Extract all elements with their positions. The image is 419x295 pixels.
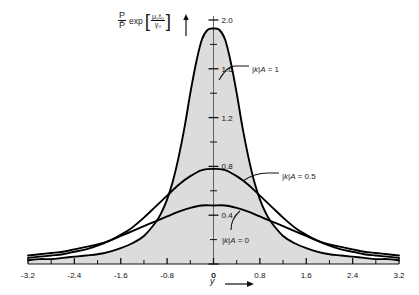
x-axis-label: y bbox=[210, 276, 215, 286]
x-tick-label: -1.6 bbox=[114, 271, 128, 280]
chart-figure: -3.2-2.4-1.6-0.800.81.62.43.200.40.81.21… bbox=[0, 0, 419, 295]
y-tick-label: 2.0 bbox=[222, 16, 234, 25]
x-tick-label: -0.8 bbox=[160, 271, 174, 280]
y-axis-label-formula: P P̄ exp [ μ₀t₀ γ₀ ] bbox=[117, 11, 171, 31]
annotation-label-k05: |k|A = 0.5 bbox=[282, 172, 316, 181]
x-axis-arrow-head-icon bbox=[247, 281, 254, 287]
x-tick-label: 0.8 bbox=[254, 271, 266, 280]
x-tick-label: -3.2 bbox=[21, 271, 35, 280]
x-tick-label: -2.4 bbox=[67, 271, 81, 280]
plot-svg: -3.2-2.4-1.6-0.800.81.62.43.200.40.81.21… bbox=[0, 0, 419, 295]
y-tick-label: 0.4 bbox=[222, 211, 234, 220]
x-tick-label: 1.6 bbox=[301, 271, 313, 280]
x-tick-label: 3.2 bbox=[393, 271, 405, 280]
bracket-close: ] bbox=[166, 13, 171, 28]
y-axis-arrow-head-icon bbox=[183, 14, 189, 20]
exponent-numerator: μ₀t₀ bbox=[151, 13, 165, 21]
fraction-denominator: P̄ bbox=[119, 21, 125, 30]
x-tick-label: 2.4 bbox=[347, 271, 359, 280]
exp-text: exp bbox=[129, 16, 143, 26]
pressure-ratio-fraction: P P̄ bbox=[118, 11, 126, 31]
bracket-open: [ bbox=[145, 13, 150, 28]
exponent-fraction: μ₀t₀ γ₀ bbox=[151, 13, 165, 29]
exponent-denominator: γ₀ bbox=[155, 21, 161, 28]
annotation-label-k0: |k|A = 0 bbox=[222, 236, 249, 245]
annotation-label-k1: |k|A = 1 bbox=[252, 65, 279, 74]
y-tick-label: 1.2 bbox=[222, 114, 234, 123]
